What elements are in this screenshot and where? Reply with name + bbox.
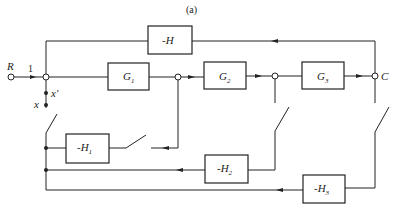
output-node bbox=[372, 73, 378, 79]
input-arrow bbox=[30, 75, 36, 79]
feedback-h3-arrow bbox=[276, 188, 283, 192]
feedback-h-arrow bbox=[271, 39, 278, 43]
figure-caption: (a) bbox=[186, 4, 197, 16]
switch-h1 bbox=[109, 135, 146, 148]
input-gain-label: 1 bbox=[28, 63, 33, 74]
switch-h2 bbox=[248, 107, 289, 170]
tap-x-label: x bbox=[33, 98, 39, 110]
input-label: R bbox=[6, 60, 14, 72]
block-minus-h-label: -H bbox=[162, 34, 175, 46]
node-g2-output bbox=[272, 73, 278, 79]
switch-main bbox=[46, 114, 57, 133]
tap-x-dot bbox=[44, 103, 48, 107]
arrow-g2-out bbox=[255, 74, 262, 78]
arrow-g3-out bbox=[356, 74, 363, 78]
feedback-h1-arrow bbox=[162, 146, 169, 150]
output-label: C bbox=[381, 70, 389, 82]
block-diagram: (a) R 1 G1 G2 G3 C -H x' x -H1 bbox=[0, 0, 394, 208]
switch-h3 bbox=[345, 107, 389, 188]
node-g1-output bbox=[175, 74, 181, 80]
tap-x-prime-dot bbox=[44, 91, 48, 95]
tap-x-prime-label: x' bbox=[50, 87, 59, 99]
input-node bbox=[8, 74, 14, 80]
feedback-h1-return bbox=[151, 80, 178, 148]
arrow-to-g2 bbox=[188, 75, 195, 79]
summing-node bbox=[43, 74, 49, 80]
feedback-h2-arrow bbox=[176, 168, 183, 172]
